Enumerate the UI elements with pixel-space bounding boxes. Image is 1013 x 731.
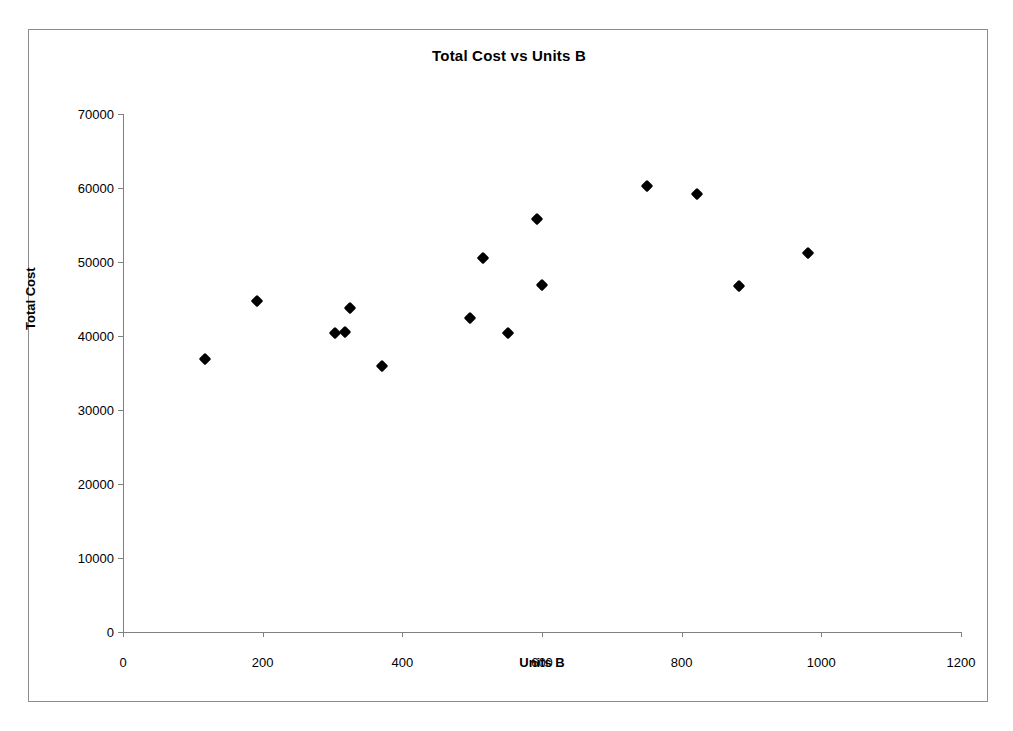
x-tick-label: 600 bbox=[531, 655, 553, 670]
data-point bbox=[477, 252, 490, 265]
y-tick-mark bbox=[118, 262, 123, 263]
data-point bbox=[344, 302, 357, 315]
x-tick-mark bbox=[821, 632, 822, 637]
chart-frame: Total Cost vs Units B Total Cost Units B… bbox=[28, 29, 988, 702]
x-tick-mark bbox=[123, 632, 124, 637]
y-tick-label: 50000 bbox=[78, 255, 114, 270]
screenshot-root: Total Cost vs Units B Total Cost Units B… bbox=[0, 0, 1013, 731]
x-tick-mark bbox=[402, 632, 403, 637]
data-point bbox=[531, 213, 544, 226]
data-point bbox=[198, 353, 211, 366]
y-axis-line bbox=[123, 114, 124, 632]
x-tick-mark bbox=[542, 632, 543, 637]
chart-title: Total Cost vs Units B bbox=[29, 47, 989, 64]
y-tick-label: 60000 bbox=[78, 181, 114, 196]
data-point bbox=[464, 311, 477, 324]
y-tick-label: 20000 bbox=[78, 477, 114, 492]
data-point bbox=[733, 280, 746, 293]
data-point bbox=[536, 279, 549, 292]
y-tick-mark bbox=[118, 484, 123, 485]
y-tick-mark bbox=[118, 558, 123, 559]
y-axis-title: Total Cost bbox=[23, 267, 38, 330]
y-tick-label: 0 bbox=[107, 625, 114, 640]
y-tick-mark bbox=[118, 188, 123, 189]
y-tick-label: 10000 bbox=[78, 551, 114, 566]
x-tick-mark bbox=[263, 632, 264, 637]
data-point bbox=[339, 325, 352, 338]
y-tick-mark bbox=[118, 336, 123, 337]
x-tick-label: 0 bbox=[119, 655, 126, 670]
x-tick-label: 1000 bbox=[807, 655, 836, 670]
plot-area: 010000200003000040000500006000070000 020… bbox=[123, 114, 961, 632]
y-tick-label: 30000 bbox=[78, 403, 114, 418]
y-tick-mark bbox=[118, 410, 123, 411]
y-tick-label: 40000 bbox=[78, 329, 114, 344]
x-tick-label: 800 bbox=[671, 655, 693, 670]
y-tick-mark bbox=[118, 114, 123, 115]
x-tick-mark bbox=[682, 632, 683, 637]
data-point bbox=[251, 295, 264, 308]
data-point bbox=[501, 327, 514, 340]
data-point bbox=[376, 360, 389, 373]
x-tick-label: 1200 bbox=[947, 655, 976, 670]
data-point bbox=[640, 179, 653, 192]
y-tick-label: 70000 bbox=[78, 107, 114, 122]
data-point bbox=[691, 188, 704, 201]
x-tick-label: 200 bbox=[252, 655, 274, 670]
x-tick-mark bbox=[961, 632, 962, 637]
x-tick-label: 400 bbox=[391, 655, 413, 670]
data-point bbox=[802, 247, 815, 260]
